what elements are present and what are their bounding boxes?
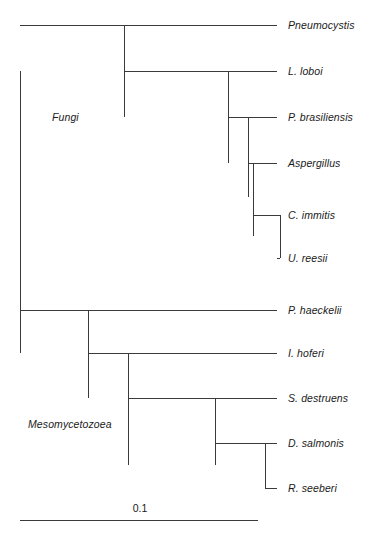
taxon-label-u-reesii: U. reesii (288, 252, 327, 264)
taxon-label-d-salmonis: D. salmonis (288, 437, 344, 449)
tree-branches-svg (0, 0, 379, 534)
scale-bar-label: 0.1 (133, 502, 148, 514)
clade-label-mesomycetozoea: Mesomycetozoea (28, 418, 112, 430)
taxon-label-pneumocystis: Pneumocystis (288, 19, 355, 31)
clade-label-fungi: Fungi (52, 111, 79, 123)
taxon-label-l-loboi: L. loboi (288, 65, 323, 77)
taxon-label-s-destruens: S. destruens (288, 392, 348, 404)
phylogenetic-tree-figure: PneumocystisL. loboiP. brasiliensisAsper… (0, 0, 379, 534)
taxon-label-r-seeberi: R. seeberi (288, 482, 337, 494)
taxon-label-p-brasiliensis: P. brasiliensis (288, 111, 353, 123)
taxon-label-p-haeckelii: P. haeckelii (288, 304, 342, 316)
taxon-label-c-immitis: C. immitis (288, 209, 335, 221)
taxon-label-aspergillus: Aspergillus (288, 157, 340, 169)
taxon-label-i-hoferi: I. hoferi (288, 347, 324, 359)
